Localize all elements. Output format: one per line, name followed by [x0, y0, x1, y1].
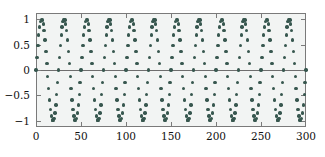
x-tick-top-100 — [126, 14, 127, 18]
scatter-point — [191, 81, 194, 84]
scatter-point — [146, 81, 149, 84]
scatter-point — [257, 103, 260, 106]
scatter-point — [82, 33, 85, 36]
y-tick-right-0.5 — [301, 45, 305, 46]
scatter-point — [133, 38, 136, 41]
scatter-point — [112, 50, 115, 53]
scatter-point — [59, 44, 62, 47]
scatter-point — [159, 75, 162, 78]
scatter-point — [41, 18, 44, 21]
scatter-point — [177, 29, 180, 32]
scatter-point — [139, 108, 142, 111]
plot-frame-bottom — [36, 126, 306, 127]
scatter-point — [113, 62, 116, 65]
scatter-point — [210, 117, 213, 120]
scatter-point — [178, 38, 181, 41]
y-axis-label-1: 1 — [0, 14, 30, 24]
scatter-point — [169, 68, 172, 71]
scatter-point — [236, 81, 239, 84]
scatter-point — [157, 50, 160, 53]
scatter-point — [260, 56, 263, 59]
scatter-point — [202, 50, 205, 53]
scatter-point — [54, 103, 57, 106]
scatter-point — [263, 25, 266, 28]
scatter-point — [180, 62, 183, 65]
x-tick-top-50 — [81, 14, 82, 18]
scatter-point — [204, 75, 207, 78]
scatter-point — [187, 117, 190, 120]
y-axis-label--1: −1 — [0, 116, 30, 126]
scatter-point — [195, 33, 198, 36]
x-tick-bottom-0 — [36, 122, 37, 126]
scatter-point — [271, 75, 274, 78]
scatter-point — [63, 18, 66, 21]
scatter-point — [227, 87, 230, 90]
scatter-point — [147, 68, 150, 71]
scatter-point — [56, 81, 59, 84]
scatter-point — [213, 93, 216, 96]
scatter-point — [111, 38, 114, 41]
scatter-point — [266, 18, 269, 21]
scatter-point — [278, 111, 281, 114]
scatter-point — [91, 75, 94, 78]
scatter-point — [183, 98, 186, 101]
scatter-point — [159, 87, 162, 90]
scatter-point — [49, 108, 52, 111]
scatter-point — [280, 93, 283, 96]
scatter-point — [234, 103, 237, 106]
scatter-point — [237, 68, 240, 71]
scatter-point — [194, 44, 197, 47]
scatter-point — [92, 87, 95, 90]
scatter-point — [214, 68, 217, 71]
scatter-point — [126, 44, 129, 47]
scatter-point — [65, 29, 68, 32]
scatter-point — [258, 93, 261, 96]
scatter-point — [125, 56, 128, 59]
scatter-point — [154, 22, 157, 25]
scatter-point — [75, 117, 78, 120]
scatter-point — [158, 62, 161, 65]
x-tick-top-0 — [36, 14, 37, 18]
scatter-point — [99, 103, 102, 106]
scatter-point — [60, 33, 63, 36]
scatter-point — [228, 98, 231, 101]
scatter-point — [294, 87, 297, 90]
scatter-point — [69, 75, 72, 78]
y-axis-label--0.5: −0.5 — [0, 90, 30, 100]
x-axis-label-0: 0 — [16, 130, 56, 142]
scatter-point — [302, 103, 305, 106]
plot-area — [36, 13, 306, 127]
scatter-point — [38, 25, 41, 28]
scatter-point — [55, 93, 58, 96]
scatter-point — [103, 56, 106, 59]
scatter-point — [223, 38, 226, 41]
scatter-point — [184, 108, 187, 111]
scatter-point — [239, 44, 242, 47]
scatter-point — [193, 56, 196, 59]
scatter-point — [182, 87, 185, 90]
scatter-point — [277, 117, 280, 120]
scatter-point — [268, 38, 271, 41]
scatter-point — [71, 108, 74, 111]
scatter-point — [248, 62, 251, 65]
scatter-point — [284, 44, 287, 47]
scatter-point — [188, 111, 191, 114]
scatter-point — [89, 50, 92, 53]
scatter-point — [83, 25, 86, 28]
scatter-point — [88, 38, 91, 41]
x-tick-bottom-300 — [305, 122, 306, 126]
scatter-point — [153, 18, 156, 21]
scatter-point — [233, 111, 236, 114]
scatter-point — [288, 18, 291, 21]
scatter-point — [60, 25, 63, 28]
scatter-point — [57, 68, 60, 71]
scatter-point — [93, 98, 96, 101]
scatter-point — [149, 44, 152, 47]
y-tick-left--0.5 — [37, 95, 41, 96]
scatter-point — [303, 93, 306, 96]
scatter-point — [232, 117, 235, 120]
scatter-point — [304, 68, 307, 71]
x-tick-top-300 — [305, 14, 306, 18]
scatter-point — [105, 25, 108, 28]
scatter-point — [132, 22, 135, 25]
